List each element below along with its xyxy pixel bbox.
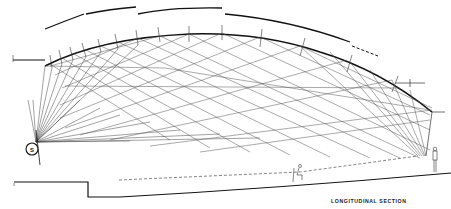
standing-person-figure xyxy=(433,147,437,172)
outer-roof-segments xyxy=(45,7,378,56)
rear-converging-rays xyxy=(300,46,426,156)
figure-caption: LONGITUDINAL SECTION xyxy=(331,198,407,204)
source-label: S xyxy=(30,147,34,153)
longitudinal-section-diagram: S xyxy=(0,0,451,209)
seated-person-figure xyxy=(293,165,302,183)
sound-source: S xyxy=(26,130,40,165)
direct-ray-fan xyxy=(28,45,260,142)
floor-profile xyxy=(14,173,451,197)
left-entry-line xyxy=(13,55,45,62)
sightline-dashed xyxy=(119,156,418,180)
